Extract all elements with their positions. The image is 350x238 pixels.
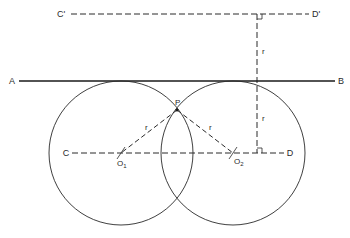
point-p	[175, 108, 178, 111]
radius-p-o1	[121, 110, 177, 153]
label-r-left: r	[145, 123, 148, 132]
label-r-right: r	[209, 123, 212, 132]
label-o1: O1	[117, 159, 127, 169]
label-r-lower: r	[262, 114, 265, 123]
label-o2: O2	[234, 157, 244, 167]
label-c: C	[63, 148, 70, 158]
label-c-prime: C'	[57, 9, 65, 19]
construction-diagram: C' D' r r A B C D r r P O1 O2	[0, 0, 350, 238]
diagram-canvas: C' D' r r A B C D r r P O1 O2	[0, 0, 350, 238]
label-d: D	[287, 148, 294, 158]
right-angle-mark-top	[257, 14, 262, 19]
label-a: A	[9, 76, 15, 86]
right-angle-mark-bottom	[257, 148, 262, 153]
radius-p-o2	[177, 110, 233, 153]
label-p: P	[175, 98, 180, 107]
label-r-upper: r	[262, 47, 265, 56]
label-b: B	[338, 76, 344, 86]
label-d-prime: D'	[312, 9, 320, 19]
